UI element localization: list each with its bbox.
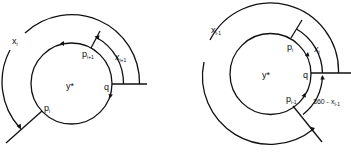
right-arc-x-i-minus-bottom bbox=[202, 62, 313, 144]
left-arc-x-i-outer-bottom bbox=[2, 50, 20, 128]
right-q-label: q bbox=[303, 70, 308, 80]
right-xi-label: xi bbox=[314, 44, 320, 55]
left-diagram: y* q pi pi+1 xi+1 xi bbox=[2, 15, 147, 143]
right-360-label: 360 - xi-1 bbox=[313, 98, 340, 107]
diagram-canvas: y* q pi pi+1 xi+1 xi y* q pi pi-1 xi 360… bbox=[0, 0, 351, 153]
right-center-label: y* bbox=[262, 70, 271, 80]
left-circle-arrow-top bbox=[60, 41, 64, 46]
right-arc-x-i-minus-top bbox=[210, 3, 339, 73]
left-xi-label: xi bbox=[12, 36, 18, 47]
right-xim1-label: xi-1 bbox=[211, 25, 221, 36]
right-arc-360-arrow bbox=[320, 75, 325, 80]
right-pim1-label: pi-1 bbox=[286, 94, 297, 105]
left-center-label: y* bbox=[66, 81, 75, 91]
left-xi1-label: xi+1 bbox=[115, 52, 127, 63]
left-q-label: q bbox=[104, 82, 109, 92]
left-pi1-label: pi+1 bbox=[82, 49, 94, 60]
right-inner-circle bbox=[230, 34, 311, 115]
left-pi-label: pi bbox=[44, 103, 50, 114]
right-diagram: y* q pi pi-1 xi 360 - xi-1 xi-1 bbox=[202, 3, 351, 144]
right-arc-360 bbox=[303, 76, 323, 115]
right-pi-label: pi bbox=[287, 42, 293, 53]
